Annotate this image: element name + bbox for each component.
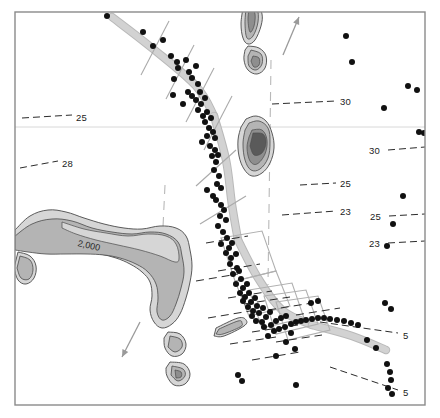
landmass-sliver-elongate [214,317,247,336]
epicenter-dot-63 [244,281,250,287]
epicenter-dot-52 [229,240,235,246]
epicenter-dot-31 [207,143,213,149]
epicenter-dot-113 [385,385,391,391]
epicenter-dot-79 [267,309,273,315]
epicenter-dot-48 [220,229,226,235]
epicenter-dot-28 [204,133,210,139]
epicenter-dot-55 [233,251,239,257]
epicenter-dot-9 [189,75,195,81]
leader-line-mid-25 [300,183,336,185]
epicenter-dot-27 [210,129,216,135]
rate-label-right-23: 23 [369,238,380,249]
epicenter-dot-6 [175,65,181,71]
epicenter-dot-59 [236,268,242,274]
epicenter-dot-54 [228,255,234,261]
leader-line-mid-23 [282,211,336,215]
epicenter-dot-16 [193,97,199,103]
epicenter-dot-67 [240,298,246,304]
rate-label-mid-25: 25 [340,178,351,189]
epicenter-dot-0 [104,13,110,19]
rate-label-mid-30: 30 [340,96,351,107]
epicenter-dot-80 [261,324,267,330]
epicenter-dot-106 [273,353,279,359]
epicenter-dot-78 [263,314,269,320]
epicenter-dot-13 [170,92,176,98]
epicenter-dot-10 [171,76,177,82]
leader-line-right-25 [389,214,425,216]
epicenter-dot-99 [348,320,354,326]
landmass-island-north-a [241,0,262,44]
epicenter-dot-3 [160,37,166,43]
epicenter-dot-114 [389,391,395,397]
epicenter-dot-66 [246,290,252,296]
epicenter-dot-61 [233,281,239,287]
epicenter-dot-118 [405,83,411,89]
epicenter-dot-30 [199,139,205,145]
epicenter-dot-11 [193,63,199,69]
epicenter-dot-125 [390,221,396,227]
epicenter-dot-98 [341,318,347,324]
epicenter-dot-23 [204,109,210,115]
rate-label-left-25: 25 [76,112,87,123]
epicenter-dot-53 [223,250,229,256]
epicenter-dot-117 [349,59,355,65]
epicenter-dot-105 [292,346,298,352]
landmass-islet-s1 [164,332,186,356]
epicenter-dot-44 [221,207,227,213]
rate-label-right-25: 25 [370,211,381,222]
leader-line-right-30 [388,147,425,150]
rate-label-left-28: 28 [62,158,73,169]
epicenter-dot-86 [276,326,282,332]
epicenter-dot-5 [174,59,180,65]
epicenter-dot-2 [150,43,156,49]
epicenter-dot-4 [168,53,174,59]
landmass-island-north-b [244,46,267,74]
epicenter-dot-37 [216,173,222,179]
epicenter-dot-81 [268,322,274,328]
epicenter-dot-60 [238,276,244,282]
landmass-islet-left [14,252,36,284]
map-figure: 252830252330252355 2,000 [0,0,440,418]
epicenter-dot-43 [218,202,224,208]
map-canvas [0,0,440,418]
epicenter-dot-29 [212,135,218,141]
leader-line-left-28 [20,161,58,168]
leader-line-right-23 [388,241,425,243]
epicenter-dot-19 [202,95,208,101]
landmass-layer [14,0,274,386]
rate-label-mid-23: 23 [340,206,351,217]
landmass-mainland-sw [15,210,192,328]
epicenter-dot-110 [384,361,390,367]
dashed-boundary-9 [296,308,340,315]
epicenter-dot-102 [315,298,321,304]
rate-label-lower-5a: 5 [403,330,408,341]
leader-line-left-25 [22,115,72,118]
epicenter-dot-121 [421,130,427,136]
epicenter-dot-115 [382,300,388,306]
epicenter-dot-75 [260,305,266,311]
epicenter-dot-91 [288,330,294,336]
epicenter-dot-87 [282,324,288,330]
epicenter-dot-119 [414,87,420,93]
epicenter-dot-108 [239,378,245,384]
dashed-boundary-4 [208,311,250,318]
epicenter-dot-39 [218,185,224,191]
epicenter-dot-74 [256,310,262,316]
epicenter-dot-50 [218,241,224,247]
epicenter-dot-69 [252,295,258,301]
epicenter-dot-73 [249,313,255,319]
epicenter-dot-94 [315,315,321,321]
epicenter-dot-7 [183,57,189,63]
epicenter-dot-96 [327,316,333,322]
epicenter-dot-84 [283,313,289,319]
epicenter-dot-42 [213,197,219,203]
epicenter-dot-46 [223,217,229,223]
epicenter-dot-101 [308,300,314,306]
epicenter-dot-104 [283,339,289,345]
dashed-boundary-8 [276,335,322,342]
epicenter-dot-82 [273,318,279,324]
epicenter-dot-95 [321,315,327,321]
landmass-islet-s2 [166,362,190,386]
epicenter-dot-127 [373,345,379,351]
epicenter-dot-layer [104,13,427,397]
